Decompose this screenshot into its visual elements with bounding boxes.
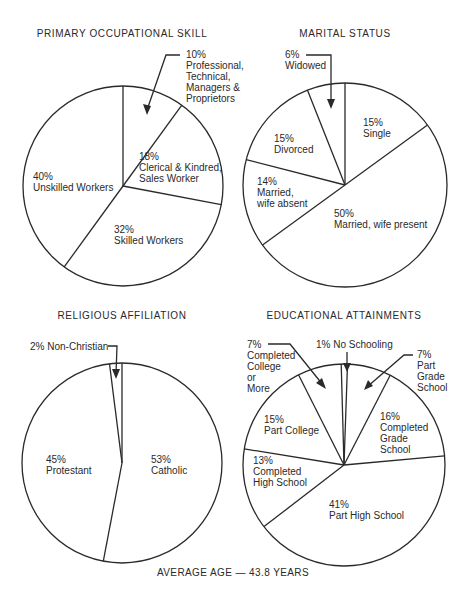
label-protestant: 45% Protestant <box>46 454 92 476</box>
title-educational: EDUCATIONAL ATTAINMENTS <box>266 310 421 321</box>
label-professional: 10% Professional, Technical, Managers & … <box>186 49 244 104</box>
label-non-christian: 2% Non-Christian <box>30 341 108 352</box>
title-religious: RELIGIOUS AFFILIATION <box>57 310 186 321</box>
label-divorced: 15% Divorced <box>274 133 313 155</box>
label-clerical: 18% Clerical & Kindred, Sales Worker <box>139 151 222 184</box>
average-age-caption: AVERAGE AGE — 43.8 YEARS <box>157 567 309 578</box>
label-no-schooling: 1% No Schooling <box>316 339 393 350</box>
label-part-college: 15% Part College <box>264 414 319 436</box>
label-part-grade: 7% Part Grade School <box>417 349 448 393</box>
label-completed-high: 13% Completed High School <box>253 455 307 488</box>
label-completed-college: 7% Completed College or More <box>247 339 295 394</box>
label-catholic: 53% Catholic <box>151 454 187 476</box>
label-widowed: 6% Widowed <box>285 49 326 71</box>
label-skilled: 32% Skilled Workers <box>114 224 183 246</box>
label-wife-present: 50% Married, wife present <box>334 208 427 230</box>
label-wife-absent: 14% Married, wife absent <box>257 176 308 209</box>
title-occupational: PRIMARY OCCUPATIONAL SKILL <box>37 28 208 39</box>
label-part-high: 41% Part High School <box>329 499 404 521</box>
label-completed-grade: 16% Completed Grade School <box>380 411 428 455</box>
title-marital: MARITAL STATUS <box>299 28 390 39</box>
label-single: 15% Single <box>363 117 391 139</box>
figure: PRIMARY OCCUPATIONAL SKILL MARITAL STATU… <box>0 0 466 598</box>
label-unskilled: 40% Unskilled Workers <box>33 171 113 193</box>
